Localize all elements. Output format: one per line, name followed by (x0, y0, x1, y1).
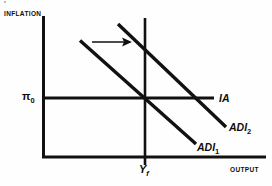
adi1-curve-line (80, 41, 196, 145)
economics-diagram-figure: INFLATION OUTPUT π0 Yf IA ADI2 ADI1 (0, 0, 272, 186)
adi2-curve-label-text: ADI (229, 121, 247, 133)
adi1-curve-label: ADI1 (197, 142, 219, 156)
y-axis-tick-label-pi0: π0 (22, 91, 35, 105)
y-axis-title: INFLATION (4, 11, 41, 18)
diagram-canvas (0, 0, 272, 186)
ia-curve-label: IA (219, 93, 230, 104)
adi2-curve-label-subscript: 2 (247, 127, 251, 136)
adi1-curve-label-subscript: 1 (215, 147, 219, 156)
ia-curve-label-text: IA (219, 92, 230, 104)
adi2-curve-line (118, 24, 226, 127)
pi-subscript: 0 (30, 96, 34, 105)
adi2-curve-label: ADI2 (229, 122, 251, 136)
y-subscript: f (146, 169, 149, 178)
x-axis-title: OUTPUT (230, 167, 259, 174)
adi1-curve-label-text: ADI (197, 141, 215, 153)
x-axis-tick-label-yf: Yf (139, 164, 149, 178)
